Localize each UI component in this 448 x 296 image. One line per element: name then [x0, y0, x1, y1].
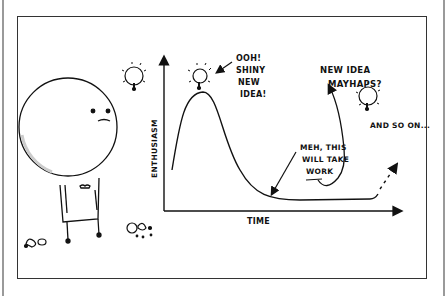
svg-text:NEW: NEW — [238, 78, 260, 87]
enthusiasm-curve — [172, 92, 378, 200]
svg-text:WILL TAKE: WILL TAKE — [302, 155, 349, 164]
work-underline — [306, 179, 322, 180]
x-axis-label: TIME — [247, 217, 270, 226]
continuation-dotted-line — [380, 167, 395, 189]
new-idea-annotation: NEW IDEA MAYHAPS? — [320, 65, 382, 89]
lightbulb-icon — [122, 62, 146, 91]
y-axis-label: ENTHUSIASM — [150, 119, 159, 178]
peak-annotation: OOH! SHINY NEW IDEA! — [236, 54, 266, 99]
svg-text:OOH!: OOH! — [236, 54, 261, 63]
stick-figure — [19, 78, 117, 243]
svg-text:MEH, THIS: MEH, THIS — [300, 143, 347, 152]
comic-drawing: ENTHUSIASM TIME OOH! SHINY NEW IDEA! MEH… — [0, 0, 448, 296]
lightbulb-icon — [188, 63, 211, 90]
peak-pointer-arrow — [219, 62, 232, 71]
svg-text:SHINY: SHINY — [236, 66, 265, 75]
and-so-on-annotation: AND SO ON... — [370, 121, 430, 130]
broken-lightbulb-icon — [25, 239, 47, 248]
broken-lightbulb-icon — [127, 223, 152, 238]
svg-text:WORK: WORK — [306, 167, 334, 176]
svg-text:IDEA!: IDEA! — [240, 90, 266, 99]
svg-text:NEW IDEA: NEW IDEA — [320, 65, 370, 75]
trough-pointer-arrow — [273, 152, 296, 192]
svg-text:MAYHAPS?: MAYHAPS? — [328, 79, 382, 89]
